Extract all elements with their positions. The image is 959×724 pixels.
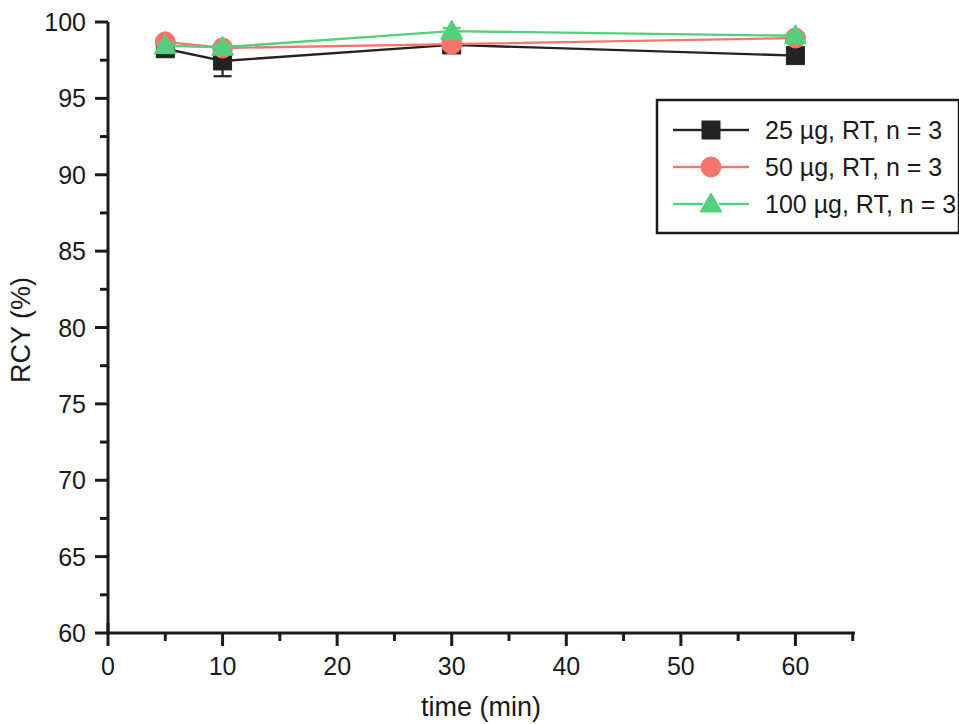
- y-axis-tick-label: 70: [58, 466, 86, 494]
- legend-label: 25 µg, RT, n = 3: [765, 116, 942, 144]
- x-axis-tick-label: 10: [209, 652, 237, 680]
- legend-marker: [702, 121, 720, 139]
- x-axis-tick-label: 40: [552, 652, 580, 680]
- x-axis-tick-label: 0: [101, 652, 115, 680]
- x-axis-tick-label: 50: [667, 652, 695, 680]
- x-axis-tick-label: 60: [782, 652, 810, 680]
- y-axis-tick-label: 75: [58, 390, 86, 418]
- y-axis-tick-label: 80: [58, 314, 86, 342]
- y-axis-title: RCY (%): [6, 277, 36, 383]
- y-axis-tick-label: 85: [58, 237, 86, 265]
- chart-legend: 25 µg, RT, n = 350 µg, RT, n = 3100 µg, …: [657, 100, 959, 233]
- rcy-vs-time-line-chart: 1009590858075706560 0102030405060 25 µg,…: [0, 0, 959, 724]
- legend-label: 50 µg, RT, n = 3: [765, 153, 942, 181]
- y-axis-tick-label: 65: [58, 543, 86, 571]
- y-axis-tick-label: 100: [44, 8, 86, 36]
- y-axis-tick-label: 90: [58, 161, 86, 189]
- data-point-marker: [786, 47, 804, 65]
- x-axis-tick-label: 20: [323, 652, 351, 680]
- y-axis-tick-label: 60: [58, 619, 86, 647]
- y-axis-tick-label: 95: [58, 84, 86, 112]
- chart-figure: 1009590858075706560 0102030405060 25 µg,…: [0, 0, 959, 724]
- legend-entry: 50 µg, RT, n = 3: [673, 153, 942, 181]
- x-axis-title: time (min): [421, 692, 541, 722]
- legend-marker: [701, 157, 721, 177]
- x-axis-tick-label: 30: [438, 652, 466, 680]
- legend-label: 100 µg, RT, n = 3: [765, 190, 956, 218]
